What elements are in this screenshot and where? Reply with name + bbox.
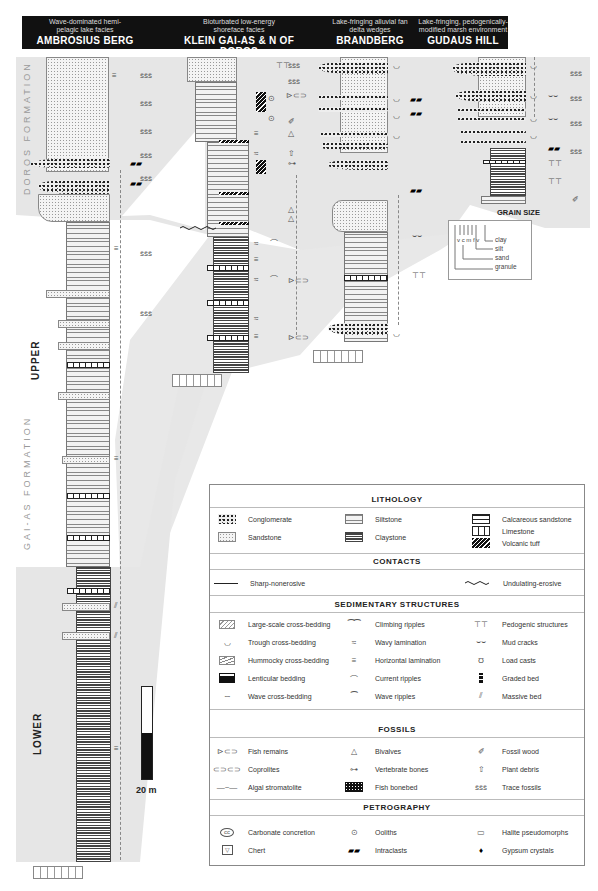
legend-label: Fish remains	[248, 748, 288, 755]
legend-label: Plant debris	[502, 766, 539, 773]
legend-item-trace-fossils: ššš Trace fossils	[472, 781, 541, 793]
legend-item-volcanic-tuff: Volcanic tuff	[472, 537, 540, 549]
climbing-ripples-icon: ⁀⁀	[345, 619, 363, 629]
sandstone-bed	[38, 194, 110, 222]
conglomerate-bed	[455, 90, 526, 102]
mud-cracks-icon: ⌣⌣	[472, 637, 490, 647]
trace-fossils-icon: ššš	[140, 72, 152, 80]
scale-bar-label: 20 m	[136, 785, 157, 795]
legend-label: Fossil wood	[502, 748, 539, 755]
trough-cross-bedding-icon: ◡	[393, 95, 400, 103]
wave-ripples-icon: ⁀	[345, 691, 363, 701]
wood-icon: ✐	[472, 746, 490, 756]
legend-item-horizontal-lamination: ≡ Horizontal lamination	[345, 654, 440, 666]
legend-label: Chert	[248, 847, 265, 854]
grain-size-title: GRAIN SIZE	[497, 208, 540, 217]
limestone-bed	[207, 335, 249, 341]
legend-label: Algal stromatolite	[248, 784, 302, 791]
legend-item-climbing-ripples: ⁀⁀ Climbing ripples	[345, 618, 425, 630]
trace-icon: ššš	[472, 782, 490, 792]
trace-fossils-icon: ššš	[288, 78, 300, 86]
conglomerate-bed	[322, 142, 388, 149]
mud-cracks-icon: ⌣⌣	[412, 232, 422, 240]
legend-item-vertebrate-bones: ⊶ Vertebrate bones	[345, 763, 428, 775]
conglomerate-pattern-icon	[218, 514, 236, 524]
pedogenic-structures-icon: ⊤⊤	[548, 160, 562, 168]
fish-remains-icon: ⊳⊂⊃	[288, 277, 309, 285]
pedogenic-structures-icon: ⊤⊤	[472, 619, 490, 629]
legend-label: Claystone	[375, 534, 406, 541]
conglomerate-bed	[328, 160, 388, 170]
grain-size-granule: granule	[495, 263, 517, 270]
bioturbation-range-line	[398, 195, 399, 325]
sandstone-bed	[62, 603, 110, 611]
legend-label: Wave cross-bedding	[248, 693, 312, 700]
legend-sedimentary-structures-heading: SEDIMENTARY STRUCTURES	[210, 600, 584, 609]
claystone-bed	[490, 148, 526, 203]
pedogenic-structures-icon: ⊤⊤	[412, 272, 426, 280]
grain-size-codes: v c m f v	[457, 237, 479, 243]
legend-label: Intraclasts	[375, 847, 407, 854]
intraclasts-icon: ▰▰	[410, 110, 422, 118]
gypsum-icon: ♦	[472, 845, 490, 855]
limestone-bed	[67, 588, 110, 594]
legend-label: Trough cross-bedding	[248, 639, 316, 646]
legend-label: Bivalves	[375, 748, 401, 755]
scale-bar	[141, 686, 153, 780]
legend-label: Mud cracks	[502, 639, 538, 646]
legend-panel: LITHOLOGY Conglomerate Sandstone Siltsto…	[209, 484, 585, 866]
sandstone-bed	[46, 57, 109, 172]
legend-label: Lenticular bedding	[248, 675, 305, 682]
conglomerate-bed	[457, 108, 526, 112]
volcanic-tuff-pattern-icon	[472, 538, 490, 548]
legend-label: Wavy lamination	[375, 639, 426, 646]
wave-cross-bedding-icon: ∽	[218, 691, 236, 701]
bonebed-icon	[345, 782, 363, 792]
legend-label: Sandstone	[248, 534, 281, 541]
legend-label: Horizontal lamination	[375, 657, 440, 664]
horizontal-lamination-icon: ≡	[254, 256, 259, 264]
divider	[210, 799, 584, 800]
limestone-bed	[207, 300, 249, 306]
fish-bonebed-icon	[256, 160, 266, 174]
sandstone-bed	[58, 342, 110, 350]
horizontal-lamination-icon: ≡	[254, 130, 259, 138]
grain-size-lines	[449, 221, 531, 279]
legend-label: Conglomerate	[248, 516, 292, 523]
divider	[210, 815, 584, 816]
trace-fossils-icon: ššš	[570, 95, 582, 103]
legend-label: Hummocky cross-bedding	[248, 657, 329, 664]
trace-fossils-icon: ššš	[140, 128, 152, 136]
limestone-bed	[67, 493, 110, 499]
ooids-icon: ⊙	[345, 827, 363, 837]
legend-label: Gypsum crystals	[502, 847, 554, 854]
legend-lithology-heading: LITHOLOGY	[210, 495, 584, 504]
legend-label: Ooliths	[375, 829, 397, 836]
legend-label: Load casts	[502, 657, 536, 664]
load-casts-icon: Ʊ	[472, 655, 490, 665]
legend-item-wavy-lamination: ≈ Wavy lamination	[345, 636, 426, 648]
legend-label: Wave ripples	[375, 693, 415, 700]
legend-label: Limestone	[502, 528, 534, 535]
legend-label: Large-scale cross-bedding	[248, 621, 331, 628]
legend-item-fossil-wood: ✐ Fossil wood	[472, 745, 539, 757]
trough-cross-bedding-icon: ◡	[393, 330, 400, 338]
divider	[210, 507, 584, 508]
legend-item-algal-stromatolite: ―~― Algal stromatolite	[218, 781, 302, 793]
concretion-icon: cc	[218, 827, 236, 837]
legend-item-load-casts: Ʊ Load casts	[472, 654, 536, 666]
bioturbation-range-line	[120, 170, 121, 860]
vertebrate-bones-icon: ⊶	[288, 160, 296, 168]
stromatolite-icon: ―~―	[218, 782, 236, 792]
grain-size-silt: silt	[495, 245, 503, 252]
legend-item-mud-cracks: ⌣⌣ Mud cracks	[472, 636, 538, 648]
siltstone-bed	[195, 82, 237, 142]
legend-label: Sharp-nonerosive	[250, 580, 305, 587]
plant-debris-icon: ⇧	[288, 150, 295, 158]
limestone-bed	[483, 160, 526, 164]
grain-size-scale-klein	[172, 374, 222, 387]
intraclasts-icon: ▰▰	[410, 187, 422, 195]
graded-bed-icon	[472, 673, 490, 683]
legend-item-massive-bed: ⫽ Massive bed	[472, 690, 541, 702]
horizontal-lamination-icon: ≡	[345, 655, 363, 665]
